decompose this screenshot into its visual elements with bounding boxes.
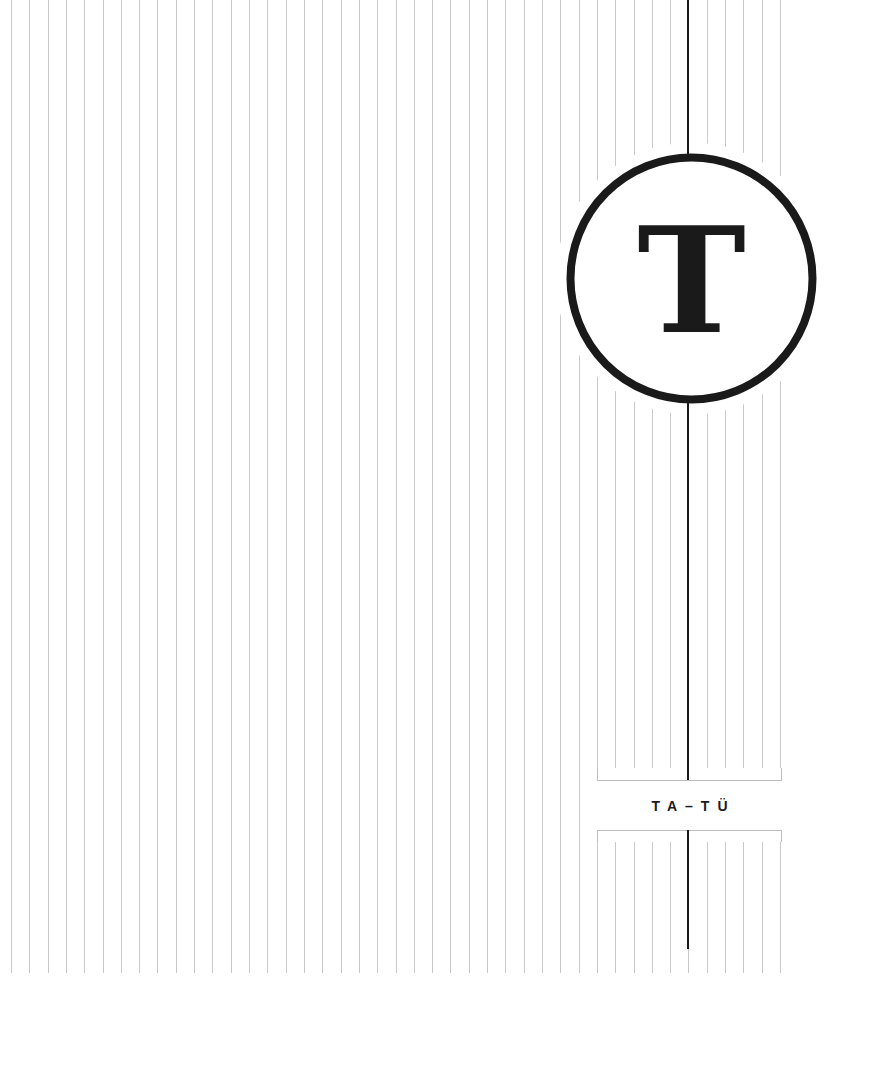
divider-letter: T xyxy=(571,158,812,399)
range-label: TA–TÜ xyxy=(597,781,782,830)
